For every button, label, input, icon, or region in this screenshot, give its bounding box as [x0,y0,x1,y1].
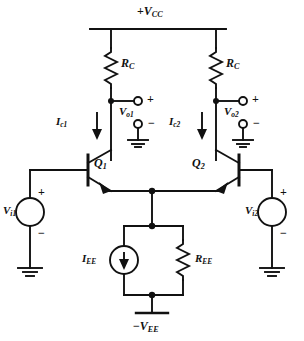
resistor-ree [177,240,189,280]
q2-emitter-arrowhead [216,182,228,194]
q2-collector-lead [216,150,239,163]
label-ree: REE [195,253,212,265]
ic1-arrowhead [92,129,102,140]
node-dot-tail-bottom [149,292,155,298]
label-rc-left: RC [121,57,134,71]
label-vi2: Vi2 [245,205,258,217]
label-vcc: +VCC [137,5,163,19]
label-vo1: Vo1 [119,106,134,118]
resistor-rc-left [105,48,117,88]
node-dot-vo1 [108,98,114,104]
label-vo2-minus: − [253,117,260,129]
label-vi1: Vi1 [3,205,16,217]
label-vee: −VEE [133,320,159,334]
node-dot-emitter-common [149,188,155,194]
label-vo2: Vo2 [224,106,239,118]
label-vi1-minus: − [38,227,45,239]
label-q2: Q2 [192,157,205,171]
terminal-vo2-plus[interactable] [239,97,247,105]
schematic-canvas [0,0,304,341]
label-vi2-minus: − [280,227,287,239]
label-iee: IEE [82,253,96,265]
q1-emitter-arrowhead [99,182,111,194]
terminal-vo1-minus[interactable] [134,120,142,128]
label-q1: Q1 [94,157,107,171]
resistor-rc-right [210,48,222,88]
circuit-diagram: +VCC RC RC + Vo1 − + Vo2 − Ic1 Ic2 Q1 Q2… [0,0,304,341]
label-ic2: Ic2 [169,116,180,128]
iee-arrowhead [119,259,129,270]
label-vo1-plus: + [147,93,154,105]
label-vo2-plus: + [252,93,259,105]
label-vi1-plus: + [38,186,45,198]
node-dot-tail-top [149,223,155,229]
label-ic1: Ic1 [56,116,67,128]
label-rc-right: RC [226,57,239,71]
voltage-source-vi1-body [16,198,44,226]
label-vo1-minus: − [148,117,155,129]
terminal-vo1-plus[interactable] [134,97,142,105]
node-dot-vo2 [213,98,219,104]
label-vi2-plus: + [280,186,287,198]
terminal-vo2-minus[interactable] [239,120,247,128]
ic2-arrowhead [197,129,207,140]
voltage-source-vi2-body [258,198,286,226]
